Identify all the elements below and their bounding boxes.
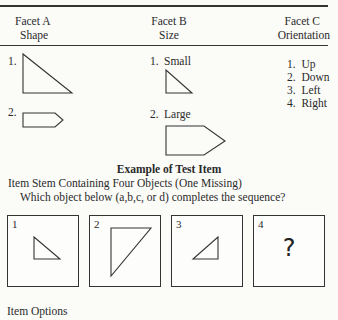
facet-c-item-2: 2. Down xyxy=(287,71,330,84)
box-number: 2 xyxy=(94,218,100,230)
sequence-box-1: 1 xyxy=(7,215,79,287)
facet-c-item-3: 3. Left xyxy=(287,84,321,97)
facet-c-item-4: 4. Right xyxy=(287,97,327,110)
box-number: 4 xyxy=(258,218,264,230)
example-heading: Example of Test Item xyxy=(0,163,338,176)
box-number: 1 xyxy=(12,218,18,230)
sequence-box-3: 3 xyxy=(171,215,243,287)
sequence-box-4: 4 ? xyxy=(253,215,325,287)
sequence-box-2: 2 xyxy=(89,215,161,287)
box-number: 3 xyxy=(176,218,182,230)
item-stem-text: Item Stem Containing Four Objects (One M… xyxy=(8,177,242,190)
question-text: Which object below (a,b,c, or d) complet… xyxy=(20,191,285,204)
facet-c-item-1: 1. Up xyxy=(287,58,315,71)
question-mark-icon: ? xyxy=(254,234,324,262)
item-options-label: Item Options xyxy=(7,305,67,318)
